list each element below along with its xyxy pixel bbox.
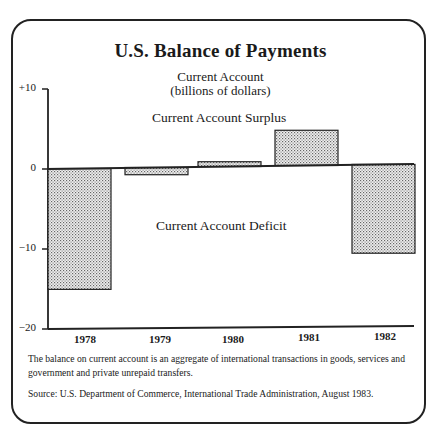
- ytick-minus10: −10: [6, 241, 36, 253]
- bar-1981: [275, 130, 338, 165]
- xlabel-1981: 1981: [279, 331, 339, 343]
- xlabel-1979: 1979: [130, 333, 190, 345]
- bar-1978: [48, 169, 111, 290]
- ytick-minus20: −20: [6, 321, 36, 333]
- deficit-annotation: Current Account Deficit: [156, 218, 286, 234]
- ytick-zero: 0: [6, 161, 36, 173]
- xlabel-1980: 1980: [203, 333, 263, 345]
- xlabel-1982: 1982: [355, 330, 415, 342]
- ytick-plus10: +10: [6, 81, 36, 93]
- surplus-annotation: Current Account Surplus: [152, 110, 286, 126]
- bars: [48, 130, 415, 289]
- definition-note: The balance on current account is an agg…: [28, 352, 418, 380]
- source-note: Source: U.S. Department of Commerce, Int…: [28, 387, 418, 401]
- xlabel-1978: 1978: [55, 333, 115, 345]
- bar-1982: [352, 164, 415, 253]
